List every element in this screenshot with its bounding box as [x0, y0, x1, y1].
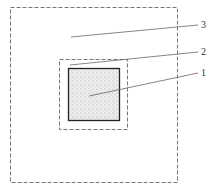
- leader-line-2: [70, 52, 198, 65]
- label-1: 1: [201, 68, 206, 78]
- diagram-canvas: [0, 0, 217, 191]
- solid-square-region-1: [69, 69, 120, 121]
- label-2: 2: [201, 47, 206, 57]
- leader-line-3: [71, 25, 198, 37]
- label-3: 3: [201, 20, 206, 30]
